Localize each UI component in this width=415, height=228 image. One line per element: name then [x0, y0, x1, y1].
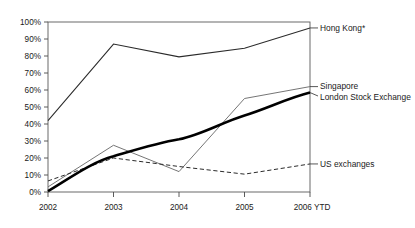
y-tick-label-70: 70% — [25, 69, 41, 78]
x-axis-labels: 2002 2003 2004 2005 2006 YTD — [39, 203, 331, 212]
line-chart: 100% 90% 80% 70% 60% 50% 40% 30% 20% 10%… — [0, 0, 415, 228]
x-axis-ticks — [48, 192, 310, 197]
x-tick-label-2004: 2004 — [170, 203, 189, 212]
y-tick-label-30: 30% — [25, 137, 41, 146]
label-leader-lines — [310, 28, 318, 164]
x-tick-label-2006: 2006 YTD — [294, 203, 331, 212]
y-tick-label-80: 80% — [25, 52, 41, 61]
series-line-singapore — [48, 87, 310, 187]
x-tick-label-2002: 2002 — [39, 203, 58, 212]
series-labels: Hong Kong* Singapore London Stock Exchan… — [320, 23, 411, 169]
x-tick-label-2003: 2003 — [104, 203, 123, 212]
series-label-singapore: Singapore — [320, 81, 359, 91]
y-tick-label-20: 20% — [25, 154, 41, 163]
y-tick-label-40: 40% — [25, 120, 41, 129]
x-tick-label-2005: 2005 — [235, 203, 254, 212]
y-tick-label-50: 50% — [25, 103, 41, 112]
y-tick-label-100: 100% — [20, 18, 41, 27]
y-tick-label-0: 0% — [29, 188, 41, 197]
chart-page: 100% 90% 80% 70% 60% 50% 40% 30% 20% 10%… — [0, 0, 415, 228]
y-tick-label-90: 90% — [25, 35, 41, 44]
y-axis-labels: 100% 90% 80% 70% 60% 50% 40% 30% 20% 10%… — [20, 18, 41, 197]
y-tick-label-60: 60% — [25, 86, 41, 95]
series-label-us-exchanges: US exchanges — [320, 159, 374, 169]
leader-line-london — [310, 93, 318, 96]
series-line-london-stock-exchange — [48, 93, 310, 192]
series-label-london-stock-exchange: London Stock Exchange — [320, 92, 411, 102]
y-tick-label-10: 10% — [25, 171, 41, 180]
series-label-hong-kong: Hong Kong* — [320, 23, 366, 33]
y-axis-ticks — [44, 22, 48, 192]
